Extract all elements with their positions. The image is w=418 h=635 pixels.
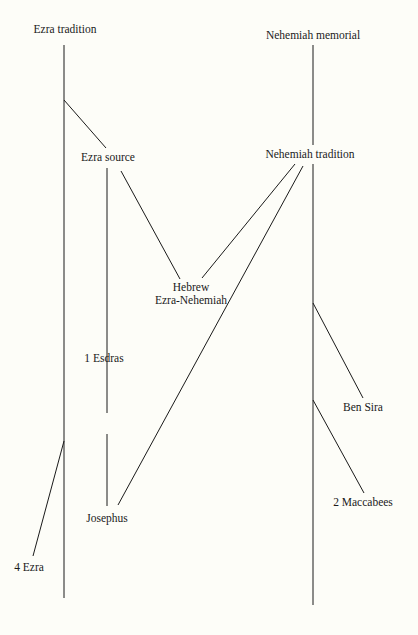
edge-ezra-tradition-to-ezra-source xyxy=(64,100,106,148)
node-2-maccabees: 2 Maccabees xyxy=(333,496,393,509)
node-ezra-source: Ezra source xyxy=(81,151,135,164)
node-ben-sira: Ben Sira xyxy=(343,401,383,414)
node-hebrew-ezra-nehemiah: Hebrew Ezra-Nehemiah xyxy=(155,281,227,307)
diagram-lines xyxy=(0,0,418,635)
node-ezra-tradition: Ezra tradition xyxy=(34,23,97,36)
node-nehemiah-tradition: Nehemiah tradition xyxy=(265,148,354,161)
edge-ezra-source-to-hebrew xyxy=(121,171,180,279)
edge-nehemiah-to-ben-sira xyxy=(313,303,363,398)
edge-ezra-tradition-to-4-ezra xyxy=(33,441,64,556)
node-4-ezra: 4 Ezra xyxy=(14,561,44,574)
node-hebrew-line1: Hebrew xyxy=(155,281,227,294)
node-hebrew-line2: Ezra-Nehemiah xyxy=(155,294,227,307)
node-josephus: Josephus xyxy=(86,512,128,525)
edge-nehemiah-tradition-to-hebrew xyxy=(202,164,295,278)
node-nehemiah-memorial: Nehemiah memorial xyxy=(266,29,360,42)
node-1-esdras: 1 Esdras xyxy=(84,352,123,365)
